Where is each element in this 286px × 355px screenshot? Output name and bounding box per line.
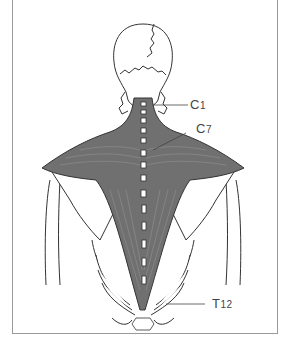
label-c1: C1 [190,97,206,112]
trapezius-illustration [0,0,286,355]
label-c7: C7 [196,121,212,136]
label-t12: T12 [212,296,233,311]
